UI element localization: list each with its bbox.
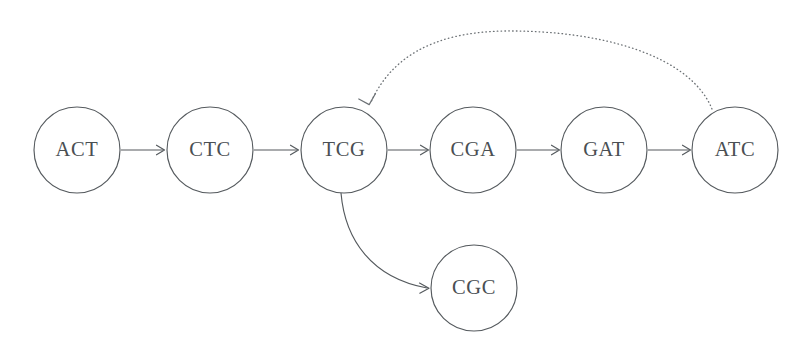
edge-tcg-cga [388,145,429,155]
edge-cga-gat [517,145,560,155]
arrowhead-icon [359,94,376,105]
node-gat[interactable]: GAT [561,107,647,193]
node-atc[interactable]: ATC [692,107,778,193]
node-label: CTC [189,138,231,160]
edge-tcg-cgc [341,193,429,293]
node-label: ACT [56,138,99,160]
node-ctc[interactable]: CTC [167,107,253,193]
diagram-canvas: ACT CTC TCG CGA GAT ATC CGC [0,0,808,350]
edge-act-ctc [121,145,165,155]
node-label: GAT [583,138,625,160]
node-cgc[interactable]: CGC [431,245,517,331]
node-label: CGA [450,138,495,160]
arrowhead-icon [420,283,430,293]
edge-gat-atc [648,145,691,155]
node-label: CGC [452,276,496,298]
node-label: TCG [323,138,366,160]
edge-atc-tcg-dotted [359,31,712,109]
node-tcg[interactable]: TCG [301,107,387,193]
node-label: ATC [715,138,756,160]
de-bruijn-graph: ACT CTC TCG CGA GAT ATC CGC [0,0,808,350]
node-act[interactable]: ACT [34,107,120,193]
edge-ctc-tcg [254,145,299,155]
node-cga[interactable]: CGA [430,107,516,193]
